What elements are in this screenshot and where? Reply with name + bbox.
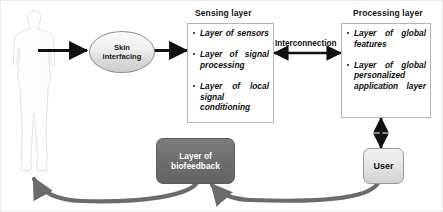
sensing-layer-panel: Layer of sensors Layer of signal process… xyxy=(187,23,274,123)
diagram-canvas: Skininterfacing Sensing layer Layer of s… xyxy=(0,0,443,212)
list-item: Layer of local signal conditioning xyxy=(192,81,269,123)
user-node: User xyxy=(363,148,404,184)
sensing-layer-list: Layer of sensors Layer of signal process… xyxy=(188,24,273,123)
skin-interfacing-node: Skininterfacing xyxy=(89,31,155,73)
sensing-layer-title: Sensing layer xyxy=(195,8,252,18)
skin-interfacing-label: Skininterfacing xyxy=(103,43,142,62)
list-item: Layer of sensors xyxy=(192,28,269,49)
human-body-silhouette xyxy=(13,11,54,171)
processing-layer-title: Processing layer xyxy=(353,8,423,18)
list-item: Layer of global personalized application… xyxy=(346,60,426,102)
processing-layer-panel: Layer of global features Layer of global… xyxy=(341,23,431,118)
interconnection-label: Interconnection xyxy=(275,39,336,48)
list-item: Layer of signal processing xyxy=(192,49,269,81)
user-label: User xyxy=(373,161,393,171)
biofeedback-node: Layer ofbiofeedback xyxy=(156,138,235,184)
list-item: Layer of global features xyxy=(346,28,426,60)
processing-layer-list: Layer of global features Layer of global… xyxy=(342,24,430,102)
curve-user-to-biofeedback xyxy=(212,181,379,201)
biofeedback-label: Layer ofbiofeedback xyxy=(171,151,220,172)
